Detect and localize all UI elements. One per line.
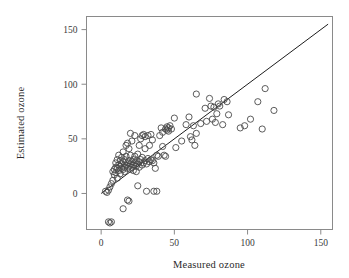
x-axis-title: Measured ozone (173, 259, 245, 270)
y-axis-title: Estimated ozone (15, 87, 26, 160)
y-tick-label: 100 (63, 80, 78, 90)
x-tick-label: 150 (314, 238, 329, 248)
scatter-plot-figure: 050100150 050100150 Measured ozone Estim… (0, 0, 349, 278)
y-tick-label: 0 (73, 189, 78, 199)
plot-canvas: 050100150 050100150 Measured ozone Estim… (0, 0, 349, 278)
y-tick-label: 150 (63, 25, 78, 35)
x-tick-label: 0 (99, 238, 104, 248)
x-tick-label: 100 (240, 238, 255, 248)
y-tick-label: 50 (68, 134, 78, 144)
x-tick-label: 50 (170, 238, 180, 248)
